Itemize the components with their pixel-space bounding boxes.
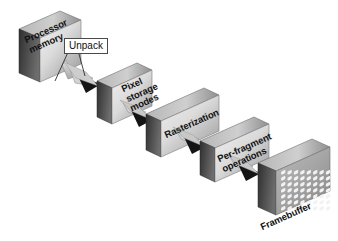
- arrow-processor-to-pixel: [62, 60, 101, 93]
- diagram-canvas: Processormemory Pixelstoragemodes Raster…: [0, 0, 338, 242]
- callout-unpack: Unpack: [64, 38, 108, 54]
- diagram-svg: [0, 0, 338, 242]
- callout-unpack-label: Unpack: [69, 40, 103, 51]
